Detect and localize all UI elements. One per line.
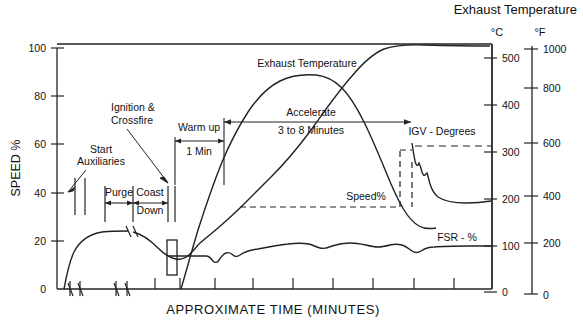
c-tick-400: 400 <box>502 99 520 111</box>
exhaust-temperature-curve-label: Exhaust Temperature <box>257 57 357 69</box>
y-tick-20: 20 <box>34 235 46 247</box>
f-tick-600: 600 <box>543 137 561 149</box>
igv-degrees-label: IGV - Degrees <box>408 125 475 137</box>
speed-percent-label: Speed% <box>346 190 386 202</box>
f-tick-800: 800 <box>543 82 561 94</box>
start-auxiliaries-line1: Start <box>90 143 112 155</box>
y-tick-0: 0 <box>40 283 46 295</box>
y-tick-60: 60 <box>34 138 46 150</box>
fsr-percent-label: FSR - % <box>437 231 477 243</box>
c-tick-500: 500 <box>502 52 520 64</box>
y-tick-80: 80 <box>34 90 46 102</box>
header-exhaust-temperature: Exhaust Temperature <box>454 2 577 17</box>
x-axis-title: APPROXIMATE TIME (MINUTES) <box>166 302 380 317</box>
figure-root: Exhaust Temperature °C °F 100 80 60 40 2… <box>0 0 583 325</box>
y-tick-100: 100 <box>28 42 46 54</box>
f-tick-400: 400 <box>543 190 561 202</box>
gas-turbine-startup-chart: Exhaust Temperature °C °F 100 80 60 40 2… <box>0 0 583 325</box>
warm-up-label: Warm up <box>178 121 220 133</box>
down-label: Down <box>137 204 164 216</box>
purge-label: Purge <box>105 186 133 198</box>
start-auxiliaries-line2: Auxiliaries <box>77 155 125 167</box>
ignition-line2: Crossfire <box>111 114 153 126</box>
ignition-line1: Ignition & <box>111 101 155 113</box>
three-to-eight-label: 3 to 8 Minutes <box>278 124 344 136</box>
f-tick-0: 0 <box>543 289 549 301</box>
accelerate-label: Accelerate <box>286 106 336 118</box>
axis-header-celsius: °C <box>491 26 503 38</box>
axis-header-fahrenheit: °F <box>534 26 545 38</box>
y-tick-40: 40 <box>34 187 46 199</box>
y-axis-left-title: SPEED % <box>9 140 23 197</box>
c-tick-0: 0 <box>502 286 508 298</box>
one-min-label: 1 Min <box>186 145 212 157</box>
coast-label: Coast <box>136 186 164 198</box>
c-tick-100: 100 <box>502 240 520 252</box>
c-tick-300: 300 <box>502 146 520 158</box>
f-tick-1000: 1000 <box>543 43 567 55</box>
c-tick-200: 200 <box>502 193 520 205</box>
f-tick-200: 200 <box>543 237 561 249</box>
